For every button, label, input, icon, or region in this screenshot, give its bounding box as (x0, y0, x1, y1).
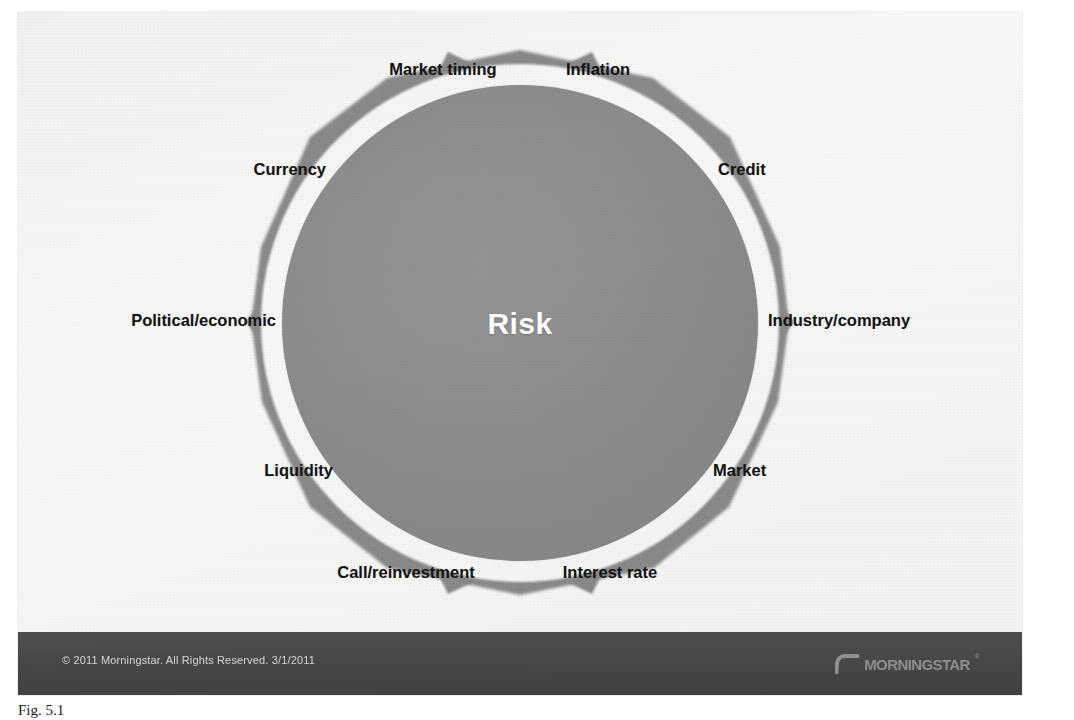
spoke-label-industry-company: Industry/company (768, 311, 910, 330)
risk-core-circle (282, 85, 758, 561)
spoke-label-inflation: Inflation (566, 60, 630, 79)
risk-diagram: Risk Market timing Inflation Currency Cr… (18, 12, 1022, 632)
scanned-page: Risk Market timing Inflation Currency Cr… (0, 0, 1074, 720)
footer-copyright-text: © 2011 Morningstar. All Rights Reserved.… (62, 654, 315, 666)
spoke-label-political-economic: Political/economic (131, 311, 276, 330)
spoke-label-market-timing: Market timing (389, 60, 496, 79)
morningstar-logo-wordmark: MORNINGSTAR (864, 656, 970, 673)
slide-image: Risk Market timing Inflation Currency Cr… (18, 12, 1022, 695)
figure-caption: Fig. 5.1 (18, 700, 64, 720)
morningstar-logo: MORNINGSTAR ® (835, 652, 980, 676)
spoke-label-credit: Credit (718, 160, 766, 179)
spoke-label-interest-rate: Interest rate (563, 563, 657, 582)
spoke-label-liquidity: Liquidity (264, 461, 333, 480)
morningstar-logo-mark-icon (835, 654, 860, 674)
slide-footer-bar: © 2011 Morningstar. All Rights Reserved.… (18, 632, 1022, 695)
spoke-label-currency: Currency (254, 160, 326, 179)
morningstar-logo-trademark: ® (975, 653, 980, 660)
spoke-label-market: Market (713, 461, 766, 480)
spoke-label-call-reinvestment: Call/reinvestment (337, 563, 475, 582)
